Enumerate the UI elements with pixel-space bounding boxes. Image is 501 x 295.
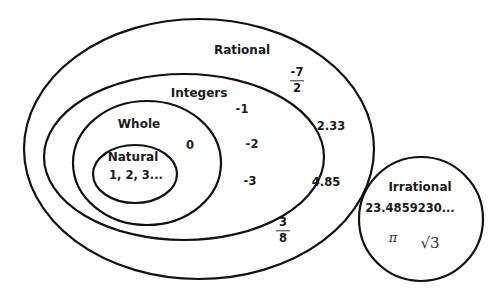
fraction-numerator: 3 — [279, 216, 287, 229]
irrational-member-decimal: 23.4859230... — [365, 203, 455, 215]
integers-label: Integers — [171, 87, 228, 99]
integer-member-neg1: -1 — [236, 104, 249, 116]
whole-label: Whole — [118, 118, 160, 130]
fraction-neg7-over-2: -7 2 — [290, 66, 304, 95]
rational-member-2.33: 2.33 — [317, 121, 345, 133]
natural-members: 1, 2, 3... — [109, 170, 163, 182]
integer-member-neg2: -2 — [246, 139, 259, 151]
irrational-member-pi: π — [389, 231, 398, 244]
irrational-set-boundary — [359, 157, 483, 281]
fraction-3-over-8: 3 8 — [276, 216, 290, 245]
fraction-denominator: 2 — [293, 83, 301, 96]
rational-member-4.85: 4.85 — [312, 177, 340, 189]
irrational-label: Irrational — [388, 181, 451, 193]
whole-member-0: 0 — [186, 140, 194, 152]
fraction-denominator: 8 — [279, 233, 287, 246]
rational-label: Rational — [214, 44, 270, 56]
natural-label: Natural — [108, 151, 159, 163]
fraction-numerator: -7 — [291, 66, 304, 79]
integer-member-neg3: -3 — [244, 176, 257, 188]
irrational-member-sqrt3: √3 — [420, 236, 439, 251]
